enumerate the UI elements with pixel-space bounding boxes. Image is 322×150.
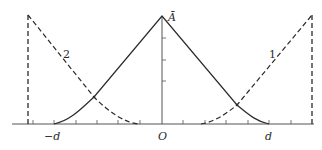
intersection-left [93, 96, 96, 99]
curve-1-label: 1 [269, 49, 276, 60]
diagram-canvas [0, 0, 322, 150]
y-axis-ticks [162, 38, 166, 81]
neg-d-label: −d [44, 131, 60, 142]
origin-label: O [158, 131, 167, 142]
intersection-right [236, 104, 239, 107]
pos-d-label: d [265, 131, 272, 142]
peak-label: Ā [168, 12, 176, 23]
curve-2-label: 2 [63, 49, 70, 60]
dashed-curve-1 [201, 15, 312, 124]
